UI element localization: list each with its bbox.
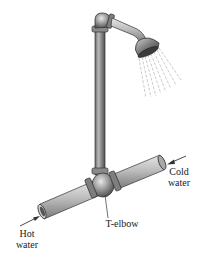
cold-water-arrow	[167, 156, 186, 165]
hot-water-label-line1: Hot	[12, 228, 42, 239]
vertical-pipe	[95, 30, 105, 175]
t-elbow-fitting	[84, 168, 121, 198]
t-elbow-label: T-elbow	[102, 218, 142, 229]
hot-water-arrow	[20, 216, 40, 226]
cold-water-label: Cold water	[163, 166, 195, 188]
hot-water-label: Hot water	[12, 228, 42, 250]
hot-water-label-line2: water	[12, 239, 42, 250]
cold-water-pipe	[114, 154, 168, 189]
cold-water-label-line1: Cold	[163, 166, 195, 177]
shower-diagram	[0, 0, 198, 263]
t-elbow-leader-line	[105, 195, 108, 218]
cold-water-label-line2: water	[163, 177, 195, 188]
